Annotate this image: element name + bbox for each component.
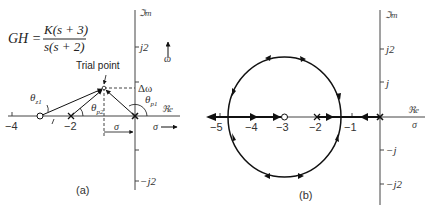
tick-label-neg3-b: −3 <box>276 121 289 133</box>
formula-lhs: GH = <box>8 31 41 46</box>
tick-label-neg5-b: −5 <box>210 121 223 133</box>
arrow-into-zero <box>273 113 281 121</box>
formula-denominator: s(s + 2) <box>44 39 85 54</box>
imag-axis-label-a: ℑm <box>139 8 152 18</box>
caption-a: (a) <box>76 184 89 196</box>
angle-arc-z1 <box>47 105 48 112</box>
trial-point-pointer <box>104 75 106 84</box>
angle-tick-z1 <box>52 119 54 124</box>
panel-b: ℑm ℜe σ j2 j −j −j2 −5 −4 −3 −2 −1 <box>206 10 425 205</box>
tick-label-negj-b: −j <box>386 144 396 156</box>
tick-label-neg1-b: −1 <box>344 121 357 133</box>
vector-from-pole-0 <box>106 90 135 116</box>
sigma-dimension-label: σ <box>114 121 120 132</box>
panel-a: GH = K(s + 3) s(s + 2) ℑm ℜe j2 −j2 −4 −… <box>5 8 180 196</box>
theta-p1-label: θp1 <box>145 93 157 108</box>
trial-point-label: Trial point <box>76 60 120 71</box>
sigma-label-b: σ <box>412 119 418 130</box>
real-axis-label-b: ℜe <box>408 105 419 115</box>
root-locus-figure: GH = K(s + 3) s(s + 2) ℑm ℜe j2 −j2 −4 −… <box>0 0 427 210</box>
real-axis-label-a: ℜe <box>162 104 173 114</box>
formula-numerator: K(s + 3) <box>43 22 88 37</box>
trial-point-marker <box>102 86 106 90</box>
theta-p2-label: θp2 <box>91 101 104 116</box>
zero-marker-neg3-b <box>282 114 288 120</box>
tick-label-negj2-b: −j2 <box>386 178 402 190</box>
sigma-label-a: σ <box>153 121 159 132</box>
zero-marker-neg3-a <box>37 113 43 119</box>
theta-z1-label: θz1 <box>30 91 42 106</box>
arrow-toward-neg4 <box>250 113 258 121</box>
tick-label-neg2-b: −2 <box>309 121 322 133</box>
caption-b: (b) <box>299 189 312 201</box>
tick-label-j-b: j <box>384 77 389 89</box>
imag-axis-label-b: ℑm <box>385 10 398 20</box>
tick-label-j2-b: j2 <box>384 43 395 55</box>
tick-label-neg4-b: −4 <box>245 121 258 133</box>
angle-arc-p2 <box>80 108 83 116</box>
tick-label-negj2-a: −j2 <box>140 175 156 187</box>
arrow-from-neg2 <box>326 113 334 121</box>
tick-label-neg2-a: −2 <box>64 120 77 132</box>
angle-arc-p1 <box>129 104 147 116</box>
arrow-left-infinity <box>206 113 216 121</box>
omega-label: ω <box>164 53 171 64</box>
tick-label-neg4-a: −4 <box>5 120 18 132</box>
arrow-from-origin <box>360 113 368 121</box>
transfer-function-formula: GH = K(s + 3) s(s + 2) <box>8 22 88 54</box>
tick-label-j2-a: j2 <box>138 41 149 53</box>
